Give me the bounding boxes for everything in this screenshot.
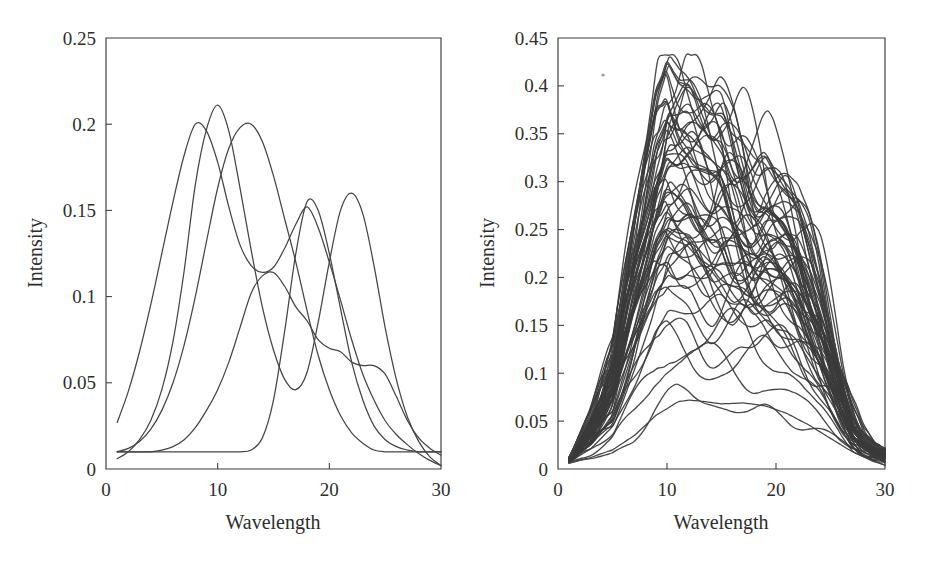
left-y-tick-labels: 00.050.10.150.20.25 <box>63 28 96 480</box>
r-x-tick-label: 10 <box>658 479 677 500</box>
right-curve-group <box>569 54 885 465</box>
left-y-tick-marks <box>106 124 112 383</box>
two-panel-spectra-figure: 00.050.10.150.20.25 0102030 Wavelength I… <box>0 0 926 563</box>
right-panel: 00.050.10.150.20.250.30.350.40.45 010203… <box>463 0 926 563</box>
r-y-tick-label: 0.2 <box>524 267 548 288</box>
right-x-axis-title: Wavelength <box>673 511 768 534</box>
r-y-tick-label: 0.1 <box>524 363 548 384</box>
left-plot-frame <box>106 38 441 469</box>
r-y-tick-label: 0.25 <box>515 219 548 240</box>
right-y-tick-labels: 00.050.10.150.20.250.30.350.40.45 <box>515 28 549 480</box>
left-x-axis-title: Wavelength <box>225 511 320 534</box>
r-y-tick-label: 0.15 <box>515 315 548 336</box>
left-curve-group <box>117 105 441 465</box>
l-y-tick-label: 0.15 <box>63 200 96 221</box>
r-y-tick-label: 0.05 <box>515 411 548 432</box>
left-panel: 00.050.10.150.20.25 0102030 Wavelength I… <box>0 0 463 563</box>
right-y-tick-marks <box>558 86 564 421</box>
left-panel-plot: 00.050.10.150.20.25 0102030 Wavelength I… <box>0 0 463 563</box>
r-x-tick-label: 30 <box>876 479 895 500</box>
left-x-tick-marks <box>218 463 330 469</box>
r-y-tick-label: 0.3 <box>524 171 548 192</box>
l-y-tick-label: 0.25 <box>63 28 96 49</box>
left-x-tick-labels: 0102030 <box>101 479 450 500</box>
right-x-tick-labels: 0102030 <box>553 479 894 500</box>
right-panel-plot: 00.050.10.150.20.250.30.350.40.45 010203… <box>463 0 926 563</box>
left-curve-pure-component-1 <box>117 123 441 466</box>
r-y-tick-label: 0 <box>539 459 549 480</box>
right-x-tick-marks <box>667 463 776 469</box>
l-x-tick-label: 0 <box>101 479 111 500</box>
left-curve-pure-component-2 <box>117 105 441 465</box>
r-y-tick-label: 0.45 <box>515 28 548 49</box>
l-y-tick-label: 0.05 <box>63 372 96 393</box>
l-x-tick-label: 30 <box>432 479 451 500</box>
left-y-axis-title: Intensity <box>24 218 47 288</box>
left-curve-pure-component-3 <box>117 123 441 452</box>
r-x-tick-label: 0 <box>553 479 563 500</box>
l-y-tick-label: 0.1 <box>72 286 96 307</box>
r-y-tick-label: 0.4 <box>524 75 548 96</box>
l-x-tick-label: 20 <box>320 479 339 500</box>
l-x-tick-label: 10 <box>208 479 227 500</box>
l-y-tick-label: 0.2 <box>72 114 96 135</box>
right-y-axis-title: Intensity <box>476 218 499 288</box>
r-y-tick-label: 0.35 <box>515 123 548 144</box>
scan-speck <box>601 73 604 76</box>
r-x-tick-label: 20 <box>767 479 786 500</box>
l-y-tick-label: 0 <box>87 459 97 480</box>
